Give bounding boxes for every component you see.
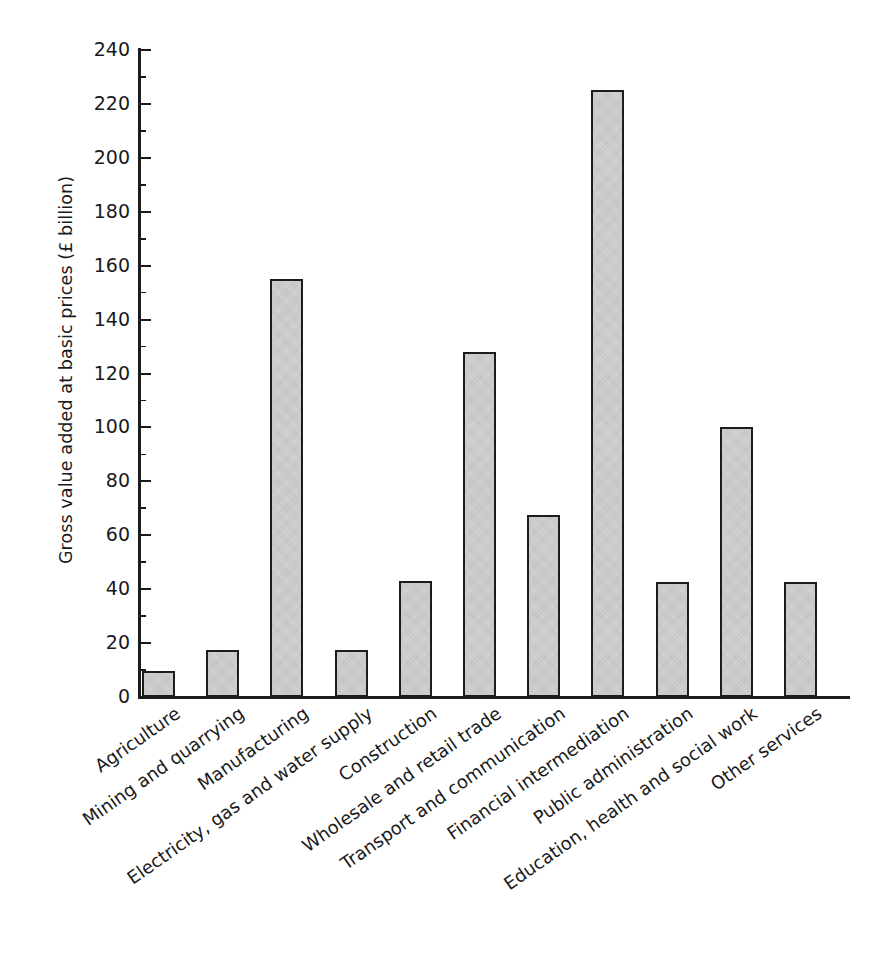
bar-chart: Gross value added at basic prices (£ bil… <box>0 0 869 960</box>
bar <box>784 582 817 697</box>
y-tick-label: 100 <box>74 417 130 436</box>
bars-container <box>142 50 848 697</box>
bar <box>142 671 175 697</box>
y-tick-label: 40 <box>74 579 130 598</box>
bar <box>463 352 496 697</box>
y-tick-label: 200 <box>74 148 130 167</box>
y-tick-label: 80 <box>74 471 130 490</box>
y-tick-label: 160 <box>74 256 130 275</box>
bar <box>720 427 753 697</box>
bar <box>206 650 239 697</box>
y-tick-label: 60 <box>74 525 130 544</box>
bar <box>527 515 560 697</box>
y-tick-label: 120 <box>74 364 130 383</box>
bar <box>335 650 368 697</box>
y-tick-label: 180 <box>74 202 130 221</box>
y-tick-label: 220 <box>74 94 130 113</box>
y-tick-label: 140 <box>74 310 130 329</box>
y-tick-label: 0 <box>74 687 130 706</box>
bar <box>656 582 689 697</box>
bar <box>591 90 624 697</box>
bar <box>270 279 303 697</box>
y-tick-label: 240 <box>74 40 130 59</box>
bar <box>399 581 432 697</box>
y-tick-label: 20 <box>74 633 130 652</box>
